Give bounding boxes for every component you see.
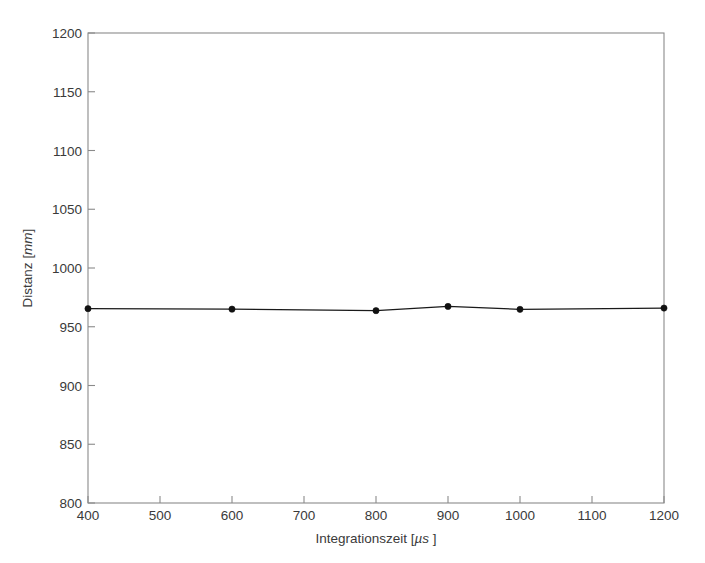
x-axis-title: Integrationszeit [µs ] (315, 531, 436, 546)
x-tick-label: 700 (293, 508, 316, 523)
x-axis-title-main: Integrationszeit [ (315, 531, 414, 546)
x-axis-title-close: ] (429, 531, 437, 546)
data-point (85, 306, 91, 312)
y-tick-label: 1150 (53, 85, 82, 100)
x-tick-label: 900 (437, 508, 460, 523)
x-axis-title-unit: µs (415, 531, 430, 546)
data-point (517, 306, 523, 312)
chart-figure: 400 500 600 700 800 900 1000 1100 1200 8… (0, 0, 705, 563)
x-tick-label: 1000 (505, 508, 535, 523)
y-tick-labels: 800 850 900 950 1000 1050 1100 1150 1200 (52, 26, 82, 511)
y-tick-label: 900 (59, 379, 82, 394)
data-point (661, 305, 667, 311)
y-tick-label: 950 (59, 320, 82, 335)
x-axis-ticks (88, 496, 664, 503)
data-series-distanz (85, 303, 667, 313)
x-tick-label: 800 (365, 508, 388, 523)
y-tick-label: 800 (59, 496, 82, 511)
y-axis-title: Distanz [mm] (20, 229, 35, 308)
data-point (229, 306, 235, 312)
y-tick-label: 1100 (53, 144, 82, 159)
x-tick-labels: 400 500 600 700 800 900 1000 1100 1200 (77, 508, 679, 523)
data-point (445, 303, 451, 309)
y-tick-label: 1000 (52, 261, 82, 276)
x-tick-label: 600 (221, 508, 244, 523)
data-point (373, 308, 379, 314)
y-axis-title-unit: mm (20, 232, 35, 255)
y-tick-label: 1200 (52, 26, 82, 41)
y-axis-title-close: ] (20, 229, 35, 233)
y-axis-title-main: Distanz [ (20, 255, 35, 308)
y-tick-label: 1050 (52, 202, 82, 217)
x-tick-label: 1200 (649, 508, 679, 523)
x-tick-label: 500 (149, 508, 172, 523)
plot-frame (88, 33, 664, 503)
x-tick-label: 1100 (577, 508, 606, 523)
y-tick-label: 850 (59, 437, 82, 452)
y-axis-ticks (88, 33, 95, 503)
line-chart: 400 500 600 700 800 900 1000 1100 1200 8… (0, 0, 705, 563)
